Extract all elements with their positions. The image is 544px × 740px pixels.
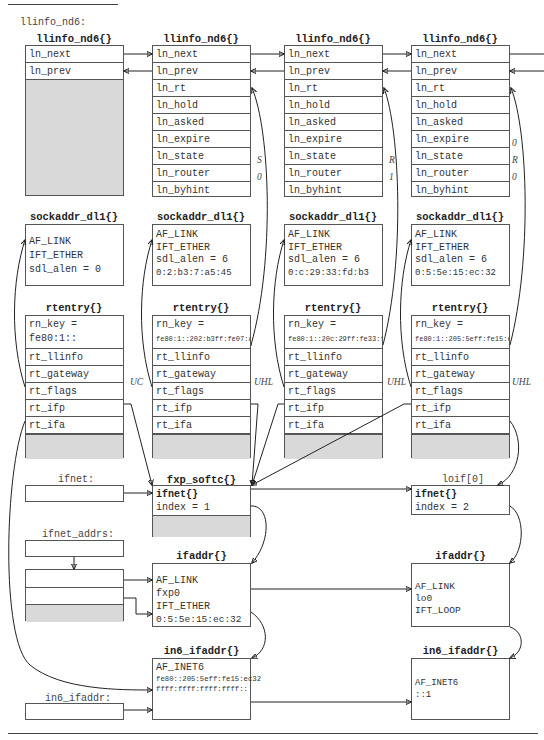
- sockaddr-struct-0: AF_LINK IFT_ETHER sdl_alen = 0: [25, 224, 124, 286]
- loif-struct: ifnet{} index = 2: [411, 485, 510, 515]
- ifnet-addrs-array: [25, 569, 124, 621]
- llinfo-shaded-area: [26, 80, 123, 195]
- llinfo-field-ln-prev: ln_prev: [412, 63, 509, 80]
- rn-key-value: fe80:1::202:b3ff:fe07:a545: [156, 332, 250, 346]
- arrow-addrs-slot-1: [124, 598, 152, 614]
- ifaddr-line: IFT_LOOP: [415, 605, 506, 617]
- rtentry-field-rt-ifp: rt_ifp: [412, 400, 509, 417]
- rtentry-field-rt-ifa: rt_ifa: [26, 417, 123, 434]
- rn-key-field: rn_key =fe80:1::: [26, 316, 123, 349]
- arrow-gateway-0: [14, 240, 25, 387]
- rt-flags-value-1: UHL: [254, 377, 273, 387]
- in6-ifaddr-fxp-title: in6_ifaddr{}: [152, 645, 251, 657]
- rtentry-shaded-area: [153, 434, 250, 459]
- arrow-fxp-ifaddr: [251, 506, 266, 563]
- rtentry-field-rt-ifa: rt_ifa: [153, 417, 250, 434]
- rtentry-title-3: rtentry{}: [411, 302, 509, 314]
- rn-key-label: rn_key =: [415, 318, 509, 332]
- rtentry-shaded-area: [26, 434, 123, 459]
- llinfo-field-ln-next: ln_next: [285, 46, 382, 63]
- sockaddr-line: sdl_alen = 6: [156, 254, 247, 267]
- ifnet-addrs-var-box: [25, 540, 124, 557]
- llinfo-field-ln-expire: ln_expire: [412, 131, 509, 148]
- rtentry-struct-0: rn_key =fe80:1::rt_llinfort_gatewayrt_fl…: [25, 315, 124, 458]
- sockaddr-line: IFT_ETHER: [415, 242, 506, 255]
- llinfo-field-ln-byhint: ln_byhint: [412, 182, 509, 199]
- sockaddr-line: IFT_ETHER: [288, 242, 379, 255]
- fxp-ifnet-label: ifnet{}: [156, 488, 247, 501]
- in6-line: ::1: [415, 689, 506, 701]
- ifaddr-lo-title: ifaddr{}: [411, 550, 510, 562]
- llinfo-field-ln-state: ln_state: [153, 148, 250, 165]
- arrow-gateway-1: [141, 240, 152, 387]
- llinfo-field-ln-hold: ln_hold: [285, 97, 382, 114]
- llinfo-field-ln-hold: ln_hold: [153, 97, 250, 114]
- sockaddr-line: sdl_alen = 0: [29, 263, 120, 277]
- rtentry-title-1: rtentry{}: [152, 302, 250, 314]
- rtentry-field-rt-llinfo: rt_llinfo: [153, 349, 250, 366]
- llinfo-field-ln-rt: ln_rt: [285, 80, 382, 97]
- llinfo-struct-1: ln_nextln_prevln_rtln_holdln_askedln_exp…: [152, 45, 251, 197]
- sockaddr-line: AF_LINK: [288, 229, 379, 242]
- llinfo-field-ln-asked: ln_asked: [285, 114, 382, 131]
- arrow-rt-ifp-1: [251, 404, 258, 485]
- fxp-index: index = 1: [156, 501, 247, 514]
- ifnet-var-label: ifnet:: [58, 474, 94, 485]
- ifaddr-line: lo0: [415, 593, 506, 605]
- llinfo-field-ln-state: ln_state: [285, 148, 382, 165]
- in6-ifaddr-lo-struct: AF_INET6 ::1: [411, 658, 510, 720]
- llinfo-field-ln-hold: ln_hold: [412, 97, 509, 114]
- llinfo-field-ln-prev: ln_prev: [285, 63, 382, 80]
- in6-ifaddr-lo-title: in6_ifaddr{}: [411, 645, 510, 657]
- rtentry-field-rt-flags: rt_flags: [26, 383, 123, 400]
- sockaddr-title-1: sockaddr_dl1{}: [152, 211, 250, 223]
- in6-ifaddr-fxp-struct: AF_INET6 fe80::205:5eff:fe15:ec32 ffff:f…: [152, 658, 251, 720]
- rtentry-struct-1: rn_key =fe80:1::202:b3ff:fe07:a545rt_lli…: [152, 315, 251, 458]
- llinfo-field-ln-next: ln_next: [153, 46, 250, 63]
- llinfo-field-ln-byhint: ln_byhint: [285, 182, 382, 199]
- rn-key-label: rn_key =: [156, 318, 250, 332]
- rtentry-field-rt-ifp: rt_ifp: [285, 400, 382, 417]
- rn-key-label: rn_key =: [288, 318, 382, 332]
- rtentry-shaded-area: [285, 434, 382, 459]
- rtentry-field-rt-gateway: rt_gateway: [26, 366, 123, 383]
- rtentry-title-2: rtentry{}: [284, 302, 382, 314]
- rt-flags-value-3: UHL: [512, 377, 531, 387]
- loif-label: loif[0]: [442, 474, 484, 485]
- rtentry-field-rt-flags: rt_flags: [285, 383, 382, 400]
- rn-key-field: rn_key =fe80:1::20c:29ff:fe33:fdb3: [285, 316, 382, 349]
- rn-key-field: rn_key =fe80:1::205:5eff:fe15:ec32: [412, 316, 509, 349]
- ifnet-addrs-shaded: [26, 605, 123, 622]
- llinfo-field-ln-expire: ln_expire: [285, 131, 382, 148]
- sockaddr-line: AF_LINK: [29, 235, 120, 249]
- llinfo-field-ln-asked: ln_asked: [412, 114, 509, 131]
- figure-header-rule: [8, 4, 118, 5]
- arrow-ifaddr-lo-in6: [510, 627, 521, 658]
- arrow-lo-ifaddr: [510, 506, 521, 563]
- llinfo-title-2: llinfo_nd6{}: [284, 33, 382, 45]
- llinfo-field: ln_next: [26, 46, 123, 63]
- arrow-rt-ifp-0: [124, 404, 152, 485]
- arrow-ifaddr-in6: [251, 612, 265, 658]
- llinfo-head-struct: ln_next ln_prev: [25, 45, 124, 196]
- rtentry-field-rt-llinfo: rt_llinfo: [26, 349, 123, 366]
- ifnet-addrs-label: ifnet_addrs:: [42, 529, 114, 540]
- in6-ifaddr-var-box: [25, 703, 124, 720]
- rn-key-label: rn_key =: [29, 318, 123, 332]
- fxp-shaded-area: [153, 516, 250, 537]
- ln-state-value-2: R: [389, 155, 395, 165]
- ln-expire-value-3: 0: [512, 138, 517, 148]
- llinfo-field-ln-rt: ln_rt: [153, 80, 250, 97]
- in6-line: AF_INET6: [156, 662, 247, 674]
- rn-key-field: rn_key =fe80:1::202:b3ff:fe07:a545: [153, 316, 250, 349]
- rn-key-value: fe80:1::: [29, 332, 123, 346]
- ifaddr-line: IFT_ETHER: [156, 600, 247, 613]
- llinfo-field-ln-prev: ln_prev: [153, 63, 250, 80]
- arrow-ln-rt-2: [383, 88, 398, 345]
- sockaddr-line: IFT_ETHER: [29, 249, 120, 263]
- fxp-softc-struct: ifnet{} index = 1: [152, 485, 251, 537]
- arrow-ln-rt-1: [251, 88, 267, 345]
- rn-key-value: fe80:1::20c:29ff:fe33:fdb3: [288, 332, 382, 346]
- llinfo-field-ln-expire: ln_expire: [153, 131, 250, 148]
- llinfo-title-1: llinfo_nd6{}: [152, 33, 250, 45]
